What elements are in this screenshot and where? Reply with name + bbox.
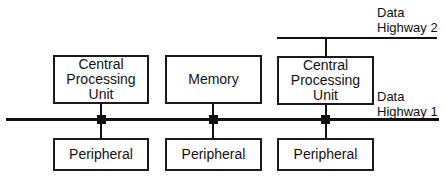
peripheral-box-2: Peripheral (165, 138, 262, 171)
cpu-box-1: Central Processing Unit (53, 55, 149, 104)
cpu-box-2: Central Processing Unit (277, 56, 374, 105)
data-highway-1-label: Data Highway 1 (377, 89, 438, 119)
peripheral-box-1-label: Peripheral (69, 147, 133, 162)
memory-box: Memory (165, 55, 262, 104)
data-highway-1-line (6, 118, 439, 121)
junction-node-2 (209, 115, 218, 124)
cpu-box-1-label: Central Processing Unit (66, 57, 135, 102)
peripheral-box-1: Peripheral (53, 138, 149, 171)
data-highway-2-label: Data Highway 2 (377, 5, 438, 35)
peripheral-box-2-label: Peripheral (182, 147, 246, 162)
cpu2-to-highway-2-connector (325, 38, 327, 56)
data-highway-2-line (277, 37, 437, 39)
cpu-box-2-label: Central Processing Unit (291, 58, 360, 103)
memory-box-label: Memory (188, 72, 239, 87)
peripheral-box-3: Peripheral (277, 138, 374, 171)
peripheral-box-3-label: Peripheral (294, 147, 358, 162)
junction-node-3 (321, 115, 330, 124)
junction-node-1 (97, 115, 106, 124)
